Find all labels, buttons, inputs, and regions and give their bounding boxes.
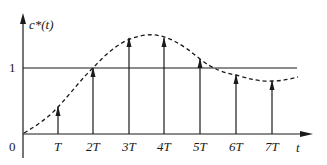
- impulse-arrows: [56, 37, 275, 134]
- level-one-label: 1: [9, 60, 16, 75]
- arrow-head-icon: [56, 106, 61, 116]
- x-axis: [23, 131, 313, 137]
- y-axis: [20, 13, 26, 158]
- origin-label: 0: [9, 139, 16, 154]
- tick-label-7T: 7T: [265, 139, 280, 154]
- x-axis-label: t: [296, 140, 300, 155]
- arrow-head-icon: [198, 58, 203, 68]
- tick-label-3T: 3T: [121, 139, 137, 154]
- x-axis-arrow-icon: [300, 131, 313, 137]
- tick-label-T: T: [54, 139, 62, 154]
- tick-labels: T 2T 3T 4T 5T 6T 7T: [54, 139, 280, 154]
- tick-label-2T: 2T: [86, 139, 101, 154]
- tick-label-6T: 6T: [229, 139, 244, 154]
- continuous-response-curve: [24, 35, 298, 133]
- y-axis-label: c*(t): [29, 17, 54, 32]
- tick-label-4T: 4T: [157, 139, 172, 154]
- arrow-head-icon: [162, 37, 167, 47]
- tick-label-5T: 5T: [193, 139, 208, 154]
- sampled-response-diagram: c*(t) 1 0 t T 2T 3T 4T 5T 6T 7T: [0, 0, 327, 165]
- y-axis-arrow-icon: [20, 13, 26, 24]
